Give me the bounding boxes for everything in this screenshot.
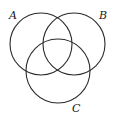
set-b-label: B bbox=[98, 9, 107, 22]
set-c-label: C bbox=[72, 102, 81, 115]
set-b-circle bbox=[43, 13, 105, 75]
venn-diagram: A B C bbox=[0, 0, 115, 118]
set-a-label: A bbox=[8, 9, 17, 22]
